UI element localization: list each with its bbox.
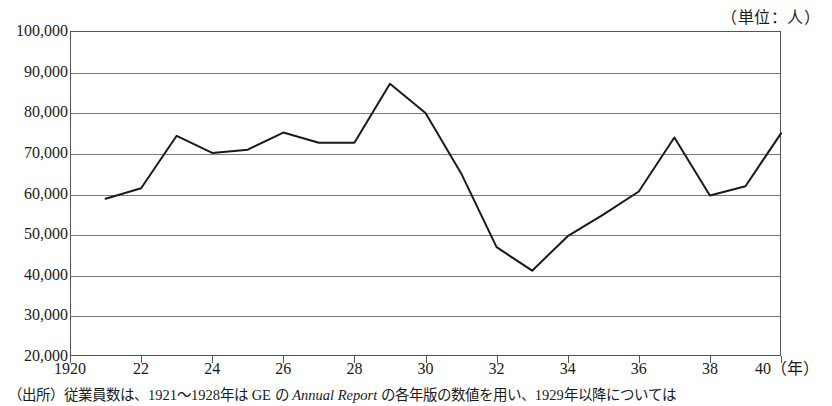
x-axis-tick-label: 34 xyxy=(538,360,598,378)
source-note-prefix: （出所） xyxy=(8,387,64,403)
source-note-publication-title: Annual Report xyxy=(292,387,377,403)
x-axis-tick-label: 40（年） xyxy=(755,360,832,378)
x-axis-tick-label: 36 xyxy=(609,360,669,378)
data-series-layer xyxy=(70,31,781,356)
x-axis-tick-label: 38 xyxy=(680,360,740,378)
x-axis-tick-label: 1920 xyxy=(40,360,100,378)
source-note-text-after: の各年版の数値を用い、1929年以降については xyxy=(377,387,676,403)
x-axis-tick-label: 24 xyxy=(182,360,242,378)
x-axis-tick-label: 32 xyxy=(467,360,527,378)
x-axis-tick-label: 26 xyxy=(253,360,313,378)
employee-count-line-chart-figure: （単位：人） 100,00090,00080,00070,00060,00050… xyxy=(0,0,832,406)
x-axis-tick-label: 30 xyxy=(396,360,456,378)
x-axis-tick-label: 28 xyxy=(324,360,384,378)
source-note-text-before: 従業員数は、1921～1928年は GE の xyxy=(64,387,292,403)
data-series-line xyxy=(106,84,781,271)
source-note: （出所）従業員数は、1921～1928年は GE の Annual Report… xyxy=(8,386,832,405)
x-axis-tick-label: 22 xyxy=(111,360,171,378)
